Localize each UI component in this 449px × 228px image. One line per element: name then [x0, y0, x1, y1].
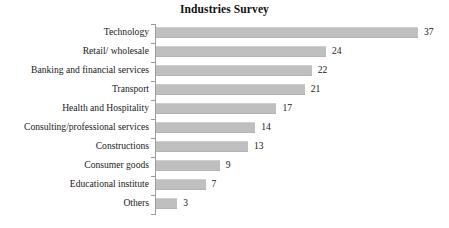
category-label: Banking and financial services [4, 64, 149, 76]
category-label: Transport [4, 83, 149, 95]
bar [156, 179, 206, 190]
bar-row: Banking and financial services22 [0, 62, 449, 81]
bar-row: Retail/ wholesale24 [0, 43, 449, 62]
bar [156, 27, 418, 38]
bar-value-label: 9 [226, 159, 231, 171]
category-label: Constructions [4, 140, 149, 152]
bar [156, 198, 177, 209]
bar [156, 141, 248, 152]
bar-row: Health and Hospitality17 [0, 100, 449, 119]
bar-row: Consulting/professional services14 [0, 119, 449, 138]
bar-value-label: 22 [318, 64, 328, 76]
bar-value-label: 14 [261, 121, 271, 133]
category-label: Others [4, 197, 149, 209]
category-label: Educational institute [4, 178, 149, 190]
bar-value-label: 7 [212, 178, 217, 190]
bar-value-label: 21 [311, 83, 321, 95]
bar [156, 46, 326, 57]
bar [156, 65, 312, 76]
bar-value-label: 24 [332, 45, 342, 57]
bar [156, 84, 305, 95]
tick-mark [151, 214, 155, 215]
bar-row: Consumer goods9 [0, 157, 449, 176]
bar-row: Others3 [0, 195, 449, 214]
bar [156, 103, 276, 114]
category-label: Health and Hospitality [4, 102, 149, 114]
chart-title: Industries Survey [0, 3, 449, 15]
plot-area: Technology37Retail/ wholesale24Banking a… [0, 24, 449, 215]
bar-value-label: 13 [254, 140, 264, 152]
bar-row: Educational institute7 [0, 176, 449, 195]
bar-row: Constructions13 [0, 138, 449, 157]
bar [156, 122, 255, 133]
bar-value-label: 3 [183, 197, 188, 209]
category-label: Consulting/professional services [4, 121, 149, 133]
bar-value-label: 37 [424, 26, 434, 38]
bar-row: Technology37 [0, 24, 449, 43]
bar [156, 160, 220, 171]
category-label: Retail/ wholesale [4, 45, 149, 57]
bar-chart: Industries Survey Technology37Retail/ wh… [0, 0, 449, 228]
category-label: Technology [4, 26, 149, 38]
category-label: Consumer goods [4, 159, 149, 171]
bar-row: Transport21 [0, 81, 449, 100]
bar-value-label: 17 [282, 102, 292, 114]
